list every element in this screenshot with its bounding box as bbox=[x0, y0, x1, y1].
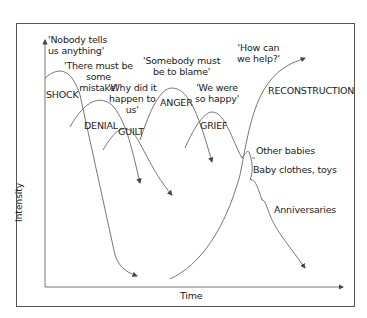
quote-guilt: 'Why did ithappen tous' bbox=[108, 82, 157, 115]
y-axis-label: Intensity bbox=[14, 183, 24, 222]
trigger-baby-clothes: Baby clothes, toys bbox=[253, 164, 337, 175]
stage-guilt: GUILT bbox=[118, 126, 144, 137]
guilt-curve bbox=[103, 129, 172, 195]
trigger-anniversaries: Anniversaries bbox=[274, 204, 336, 215]
x-axis-label: Time bbox=[180, 290, 202, 301]
quote-reconstruction: 'How canwe help?' bbox=[237, 42, 280, 64]
quote-shock: 'Nobody tellsus anything' bbox=[48, 34, 107, 56]
quote-grief: 'We wereso happy' bbox=[195, 82, 239, 104]
stage-denial: DENIAL bbox=[84, 120, 118, 131]
grief-curve bbox=[185, 112, 305, 268]
stage-grief: GRIEF bbox=[200, 120, 227, 131]
trigger-other-babies: Other babies bbox=[256, 145, 315, 156]
quote-anger: 'Somebody mustbe to blame' bbox=[143, 55, 220, 77]
stage-shock: SHOCK bbox=[46, 89, 79, 100]
stage-reconstruction: RECONSTRUCTION bbox=[268, 85, 354, 96]
stage-anger: ANGER bbox=[160, 97, 193, 108]
